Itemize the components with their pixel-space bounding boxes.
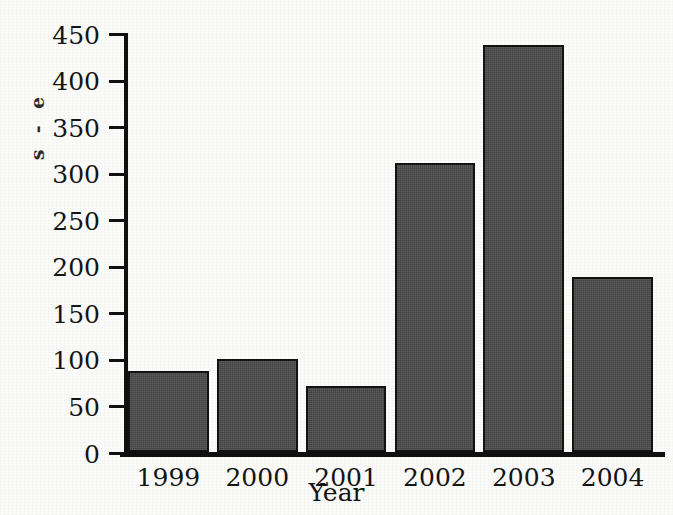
bar-2002 <box>395 163 476 452</box>
measles-cases-bar-chart-figure: s - e Number of measles cases 0501001502… <box>0 0 673 515</box>
y-axis-tick: 250 <box>109 219 125 222</box>
y-axis-tick: 350 <box>109 126 125 129</box>
plot-area: 050100150200250300350400450 199920002001… <box>124 33 657 452</box>
bar-1999 <box>128 371 209 452</box>
y-axis-tick-label: 300 <box>52 162 100 187</box>
y-axis-tick-label: 400 <box>52 69 100 94</box>
bar-2003 <box>483 45 564 452</box>
y-axis-tick: 100 <box>109 359 125 362</box>
bar-2004 <box>572 277 653 452</box>
y-axis-tick: 300 <box>109 173 125 176</box>
y-axis-tick-label: 200 <box>52 255 100 280</box>
y-axis-tick-label: 450 <box>52 22 100 47</box>
y-axis-tick-label: 350 <box>52 115 100 140</box>
y-axis-tick: 200 <box>109 266 125 269</box>
bar-2000 <box>217 359 298 452</box>
y-axis-tick: 150 <box>109 312 125 315</box>
y-axis-tick: 450 <box>109 33 125 36</box>
bar-2001 <box>306 386 387 452</box>
y-axis-tick: 50 <box>109 405 125 408</box>
y-axis-tick-label: 50 <box>68 394 100 419</box>
x-axis-line <box>120 452 665 457</box>
y-axis-tick-label: 150 <box>52 301 100 326</box>
y-axis-tick: 0 <box>109 452 125 455</box>
y-axis-tick-label: 0 <box>84 441 100 466</box>
y-axis-tick-label: 250 <box>52 208 100 233</box>
y-axis-tick-label: 100 <box>52 348 100 373</box>
y-axis-tick: 400 <box>109 80 125 83</box>
x-axis-title: Year <box>0 478 673 507</box>
